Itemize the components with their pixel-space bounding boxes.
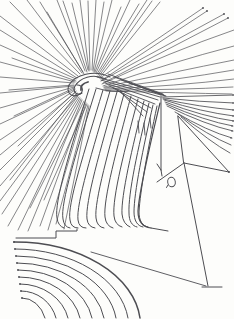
drawing-canvas xyxy=(0,0,234,319)
line-drawing-svg xyxy=(0,0,234,319)
